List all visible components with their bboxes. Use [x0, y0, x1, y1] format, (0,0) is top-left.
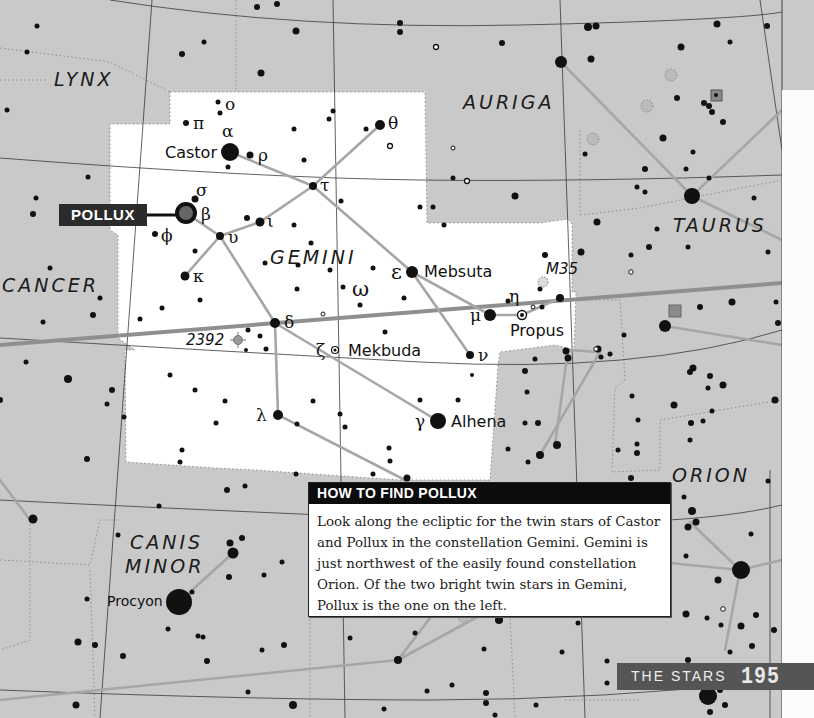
star-label-mebsuta: Mebsuta [424, 262, 492, 281]
constellation-label-canis-minor-2: MINOR [125, 555, 204, 577]
constellation-label-gemini: GEMINI [270, 246, 357, 268]
how-to-find-infobox: HOW TO FIND POLLUX Look along the eclipt… [308, 482, 671, 617]
constellation-label-orion: ORION [672, 464, 750, 486]
infobox-body: Look along the ecliptic for the twin sta… [309, 504, 670, 616]
greek-rho: ρ [258, 145, 268, 165]
greek-sigma: σ [196, 180, 208, 200]
page-margin [782, 90, 814, 718]
star-label-procyon: Procyon [107, 593, 163, 609]
constellation-label-auriga: AURIGA [463, 91, 554, 113]
greek-iota: ι [267, 211, 274, 231]
infobox-title: HOW TO FIND POLLUX [309, 483, 670, 504]
constellation-label-cancer: CANCER [2, 274, 99, 296]
greek-kappa: κ [193, 266, 204, 286]
deep-sky-label-ngc2392: 2392 [186, 331, 224, 349]
greek-gamma: γ [415, 411, 425, 431]
greek-mu: μ [470, 305, 481, 325]
greek-phi: ϕ [161, 225, 173, 245]
star-label-castor: Castor [165, 143, 217, 162]
pollux-callout: POLLUX [59, 204, 147, 226]
greek-nu: ν [478, 345, 488, 365]
greek-epsilon: ε [391, 260, 402, 284]
constellation-label-lynx: LYNX [54, 68, 114, 90]
star-label-propus: Propus [510, 321, 564, 340]
greek-upsilon: υ [228, 227, 238, 247]
greek-omicron: ο [225, 94, 235, 114]
greek-omega: ω [352, 277, 369, 301]
greek-delta: δ [284, 312, 294, 332]
star-label-alhena: Alhena [451, 412, 506, 431]
deep-sky-label-m35: M35 [546, 260, 578, 278]
greek-alpha: α [222, 121, 233, 141]
greek-pi: π [193, 113, 204, 133]
constellation-label-taurus: TAURUS [673, 214, 767, 236]
greek-zeta: ζ [316, 340, 325, 360]
page-number: 195 [741, 661, 780, 692]
section-label: THE STARS [631, 663, 727, 690]
greek-eta: η [509, 286, 519, 306]
greek-tau: τ [320, 175, 329, 195]
greek-beta: β [201, 204, 211, 224]
constellation-label-canis-minor-1: CANIS [130, 531, 203, 553]
greek-theta: θ [388, 113, 398, 133]
greek-lambda: λ [256, 405, 267, 425]
page-footer-tab: THE STARS 195 [617, 663, 814, 690]
star-label-mekbuda: Mekbuda [348, 341, 421, 360]
